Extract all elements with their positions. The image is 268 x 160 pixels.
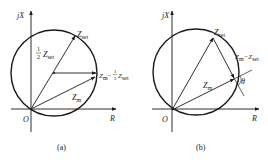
r-axis-label: R xyxy=(109,114,115,123)
z-m-label: Zm xyxy=(203,81,212,91)
r-axis-label: R xyxy=(251,114,257,123)
svg-text:Zm−: Zm− xyxy=(99,72,112,81)
origin-label: O xyxy=(162,115,168,124)
operating-circle xyxy=(153,29,239,115)
svg-text:Zset: Zset xyxy=(118,72,129,81)
svg-text:2: 2 xyxy=(37,54,40,60)
caption-a: (a) xyxy=(57,143,66,152)
diff-vector xyxy=(213,38,234,78)
z-set-vector xyxy=(172,38,213,110)
jx-axis-label: jX xyxy=(161,11,170,20)
half-z-set-label: 1 2 Zset xyxy=(36,46,54,60)
z-set-label: Zset xyxy=(77,30,88,40)
caption-b: (b) xyxy=(196,143,206,152)
theta-label: θ xyxy=(241,77,245,86)
z-m-minus-half-z-set-label: Zm− 1 2 Zset xyxy=(99,69,129,81)
jx-axis-label: jX xyxy=(16,11,25,20)
z-m-minus-z-set-label: Zm−Zset xyxy=(235,53,259,62)
svg-text:2: 2 xyxy=(114,76,117,81)
origin-label: O xyxy=(23,115,29,124)
impedance-circle-diagrams: jX R O Zset 1 2 Zset Zm− 1 2 Zset Zm (a) xyxy=(0,0,268,160)
figure-a: jX R O Zset 1 2 Zset Zm− 1 2 Zset Zm (a) xyxy=(11,11,129,152)
z-m-label: Zm xyxy=(72,93,81,103)
svg-text:Zset: Zset xyxy=(43,50,54,60)
z-set-label: Zset xyxy=(214,28,225,38)
svg-text:1: 1 xyxy=(114,69,117,74)
figure-b: jX R O Zset Zm−Zset Zm θ (b) xyxy=(152,11,259,152)
svg-text:1: 1 xyxy=(37,46,40,52)
